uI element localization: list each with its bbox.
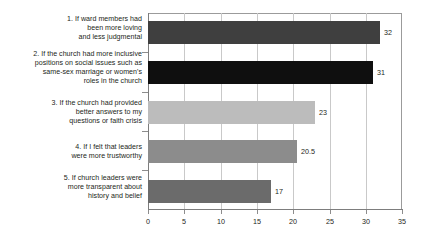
x-tick-label-15: 15: [245, 217, 269, 226]
x-tick-label-0: 0: [136, 217, 160, 226]
x-axis-tick-35: [402, 210, 403, 214]
x-tick-label-10: 10: [209, 217, 233, 226]
category-label-5: 5. If church leaders were more transpare…: [0, 174, 142, 201]
category-label-1: 1. If ward members had been more loving …: [0, 15, 142, 42]
x-axis-tick-25: [330, 210, 331, 214]
x-axis-tick-5: [184, 210, 185, 214]
x-tick-label-5: 5: [172, 217, 196, 226]
bar-value-3: 23: [319, 101, 327, 124]
x-tick-label-30: 30: [354, 217, 378, 226]
category-label-3: 3. If the church had provided better ans…: [0, 99, 142, 126]
x-axis-tick-30: [366, 210, 367, 214]
bar-chart: 1. If ward members had been more loving …: [0, 0, 422, 243]
x-axis-tick-15: [257, 210, 258, 214]
x-axis-tick-20: [293, 210, 294, 214]
bar-value-1: 32: [384, 21, 392, 44]
bar-1: [148, 21, 380, 44]
x-axis-tick-0: [148, 210, 149, 214]
x-tick-label-35: 35: [390, 217, 414, 226]
bar-4: [148, 140, 297, 163]
x-tick-label-25: 25: [318, 217, 342, 226]
category-label-4: 4. If I felt that leaders were more trus…: [0, 143, 142, 161]
bar-3: [148, 101, 315, 124]
category-label-2: 2. If the church had more inclusive posi…: [0, 50, 142, 86]
bar-5: [148, 180, 271, 203]
bar-value-5: 17: [275, 180, 283, 203]
bar-value-2: 31: [377, 61, 385, 84]
category-axis: 1. If ward members had been more loving …: [0, 13, 146, 210]
bar-value-4: 20.5: [301, 140, 315, 163]
x-axis-tick-10: [221, 210, 222, 214]
bar-2: [148, 61, 373, 84]
x-tick-label-20: 20: [281, 217, 305, 226]
x-axis-line: [148, 209, 403, 210]
plot-area: 32 31 23 20.5 17: [148, 13, 402, 210]
